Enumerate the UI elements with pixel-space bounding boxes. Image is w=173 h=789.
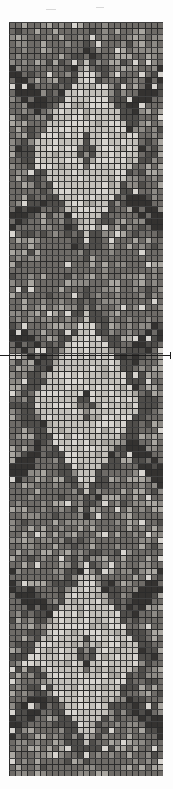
margin-speck-right (96, 7, 104, 8)
mosaic-grid-canvas (9, 22, 163, 776)
reference-line-end-tick (170, 352, 171, 359)
horizontal-reference-line (0, 355, 170, 356)
figure-canvas (0, 0, 173, 789)
margin-speck-left (46, 9, 56, 10)
pixel-mosaic-plate (9, 22, 163, 776)
